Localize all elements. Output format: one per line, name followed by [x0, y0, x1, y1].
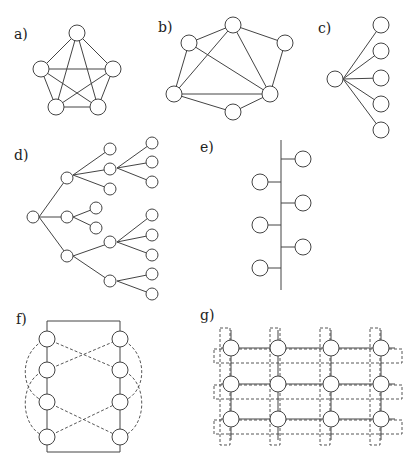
panel-c-star	[327, 17, 389, 138]
panel-label-g: g)	[200, 307, 214, 323]
panel-label-a: a)	[14, 26, 28, 42]
panel-g-grid	[214, 328, 402, 445]
panel-f-ring	[25, 321, 142, 452]
panel-a-fully-connected	[33, 25, 121, 115]
panel-d-tree	[27, 137, 158, 300]
network-topologies-figure: a) b) c) d) e) f) g)	[0, 0, 418, 464]
panel-label-c: c)	[318, 20, 331, 36]
panel-e-bus	[252, 140, 311, 290]
panel-label-d: d)	[14, 147, 28, 163]
panel-label-f: f)	[16, 311, 27, 327]
panel-label-e: e)	[200, 139, 214, 155]
panel-label-b: b)	[158, 19, 172, 35]
panel-b-mesh	[166, 17, 293, 120]
